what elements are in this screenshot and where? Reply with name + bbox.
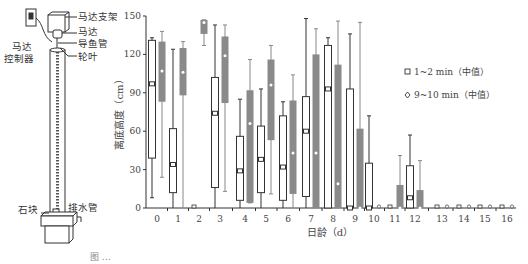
x-tick-label: 3 [217, 214, 223, 224]
median-square-marker [326, 87, 331, 91]
x-tick-label: 9 [352, 214, 358, 224]
median-dot-marker [249, 122, 252, 125]
box-1-2min-day-9 [347, 34, 354, 210]
box-1-2min-day-0 [149, 38, 156, 198]
box-1-2min-day-6 [280, 102, 287, 208]
box-1-2min-day-8 [325, 38, 332, 208]
median-square-marker [213, 111, 218, 115]
y-tick-label: 120 [124, 49, 141, 59]
box-plot-chart: 0306090120150012345678910111213141516日龄（… [113, 11, 516, 238]
box-9-10min-day-4 [247, 60, 254, 203]
median-square-marker [408, 196, 413, 200]
median-dot-marker [292, 151, 295, 154]
legend-label-9-10min: 9~10 min（中值） [414, 89, 495, 100]
box-1-2min-day-5 [258, 89, 265, 208]
box-9-10min-day-2 [201, 20, 208, 46]
box-9-10min-day-10 [377, 205, 380, 208]
label-guide-tube: 导鱼管 [78, 38, 108, 49]
box-9-10min-day-5 [268, 45, 275, 193]
label-controller-line2: 控制器 [4, 53, 34, 64]
median-square-marker [281, 165, 286, 169]
median-dot-marker [203, 21, 206, 24]
y-tick-label: 30 [130, 165, 142, 175]
box-1-2min-day-16 [500, 205, 504, 208]
median-square-marker [367, 206, 372, 210]
box-1-2min-day-10 [366, 116, 373, 210]
x-tick-label: 5 [263, 214, 269, 224]
box-9-10min-day-11 [397, 156, 404, 210]
median-dot-marker [419, 207, 422, 210]
label-motor-bracket: 马达支架 [78, 11, 118, 22]
box-9-10min-day-12 [417, 161, 424, 210]
median-square-marker [238, 169, 243, 173]
median-square-marker [150, 82, 155, 86]
x-tick-label: 11 [389, 214, 400, 224]
box-1-2min-day-11 [388, 205, 392, 208]
label-stone: 石块 [18, 204, 38, 215]
box-1-2min-day-1 [170, 49, 177, 208]
motor-icon [53, 30, 62, 38]
box-9-10min-day-16 [510, 205, 513, 208]
x-tick-label: 2 [196, 214, 202, 224]
box-1-2min-day-3 [212, 25, 219, 208]
y-tick-label: 150 [124, 11, 141, 21]
box-1-2min-day-13 [435, 205, 439, 208]
label-controller-line1: 马达 [12, 41, 32, 52]
box-9-10min-day-8 [335, 21, 342, 208]
median-dot-marker [182, 71, 185, 74]
y-tick-label: 0 [135, 203, 141, 213]
legend: 1~2 min（中值）9~10 min（中值） [405, 66, 495, 100]
median-dot-marker [399, 207, 402, 210]
median-dot-marker [315, 151, 318, 154]
y-tick-label: 90 [130, 88, 142, 98]
median-dot-marker [337, 182, 340, 185]
box-9-10min-day-13 [445, 205, 448, 208]
legend-diamond-icon [405, 92, 410, 98]
box-9-10min-day-3 [222, 25, 229, 191]
drain-pipe-icon [77, 217, 81, 222]
median-square-marker [304, 129, 309, 133]
box-9-10min-day-0 [159, 31, 166, 177]
median-square-marker [171, 162, 176, 166]
label-impeller: 轮叶 [78, 51, 98, 62]
median-dot-marker [359, 207, 362, 210]
x-tick-label: 12 [409, 214, 420, 224]
label-drain-pipe: 排水管 [68, 202, 98, 213]
box-1-2min-day-14 [457, 205, 461, 208]
x-tick-label: 10 [368, 214, 380, 224]
legend-square-icon [405, 69, 410, 74]
box-9-10min-day-9 [357, 22, 364, 209]
box-9-10min-day-14 [467, 205, 470, 208]
label-motor: 马达 [78, 26, 98, 37]
x-tick-label: 13 [436, 214, 448, 224]
figure-caption: 图 … [90, 252, 111, 262]
x-tick-label: 15 [479, 214, 491, 224]
x-tick-label: 4 [242, 214, 248, 224]
box-9-10min-day-6 [290, 75, 297, 208]
x-tick-label: 16 [501, 214, 513, 224]
x-tick-label: 7 [308, 214, 314, 224]
box-1-2min-day-15 [478, 205, 482, 208]
box-1-2min-day-7 [303, 19, 310, 208]
median-dot-marker [224, 54, 227, 57]
motor-bracket-icon [48, 15, 65, 32]
figure: 马达支架 马达 导鱼管 轮叶 马达 控制器 石块 排水管 03060901201… [0, 0, 528, 264]
median-dot-marker [161, 70, 164, 73]
median-dot-marker [270, 84, 273, 87]
box-1-2min-day-4 [237, 99, 244, 208]
x-tick-label: 14 [458, 214, 470, 224]
x-tick-label: 8 [330, 214, 336, 224]
box-9-10min-day-1 [180, 42, 187, 208]
box-9-10min-day-15 [488, 205, 491, 208]
legend-label-1-2min: 1~2 min（中值） [414, 66, 489, 77]
median-square-marker [348, 206, 353, 210]
x-tick-label: 6 [285, 214, 291, 224]
y-axis-label: 离底高度（cm） [113, 74, 125, 149]
median-square-marker [259, 157, 264, 161]
x-axis-label: 日龄（d） [307, 226, 353, 238]
box-1-2min-day-2 [192, 205, 196, 208]
x-tick-label: 1 [175, 214, 181, 224]
box-9-10min-day-7 [313, 29, 320, 208]
y-tick-label: 60 [130, 126, 142, 136]
x-tick-label: 0 [154, 214, 160, 224]
